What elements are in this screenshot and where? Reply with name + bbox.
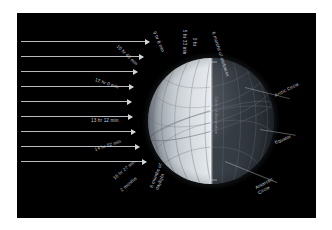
terminator-label: Circle of illumination — [214, 97, 219, 134]
sunlight-ray — [21, 41, 149, 42]
sunlight-ray — [21, 71, 137, 72]
sunlight-ray — [21, 101, 131, 102]
daylight-label-5hr33: 5 hr 33 min — [181, 30, 187, 55]
sunlight-ray — [21, 161, 146, 162]
sunlight-ray — [21, 146, 139, 147]
daylight-label-12hr0: 12 hr 0 min — [94, 77, 119, 90]
earth-illumination-figure: Circle of illumination 6 months of darkn… — [0, 0, 332, 230]
daylight-label-0-hr: 0 hr — [191, 38, 197, 47]
diagram-panel: Circle of illumination 6 months of darkn… — [17, 13, 316, 218]
circle-of-illumination — [209, 58, 213, 184]
sunlight-ray — [21, 116, 132, 117]
sunlight-ray — [21, 131, 135, 132]
label-arctic-circle: Arctic Circle — [274, 82, 300, 99]
daylight-label-13hr12: 13 hr 12 min — [91, 118, 118, 124]
daylight-label-9hr8: 9 hr 8 min — [151, 31, 165, 53]
daylight-label-2-months: 2 months — [119, 176, 138, 193]
